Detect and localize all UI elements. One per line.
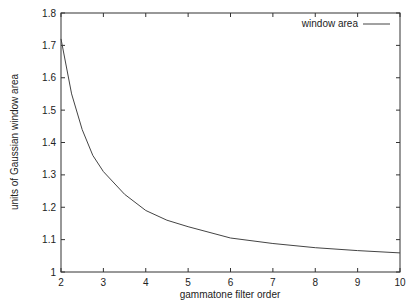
y-axis-ticks: 11.11.21.31.41.51.61.71.8: [42, 8, 400, 278]
legend-label: window area: [301, 18, 359, 29]
y-tick-label: 1.6: [42, 72, 56, 83]
y-tick-label: 1.4: [42, 137, 56, 148]
x-tick-label: 3: [101, 277, 107, 288]
line-chart: 11.11.21.31.41.51.61.71.8 2345678910 win…: [0, 0, 413, 304]
x-axis-title: gammatone filter order: [180, 289, 281, 300]
y-tick-label: 1.7: [42, 40, 56, 51]
y-tick-label: 1.8: [42, 8, 56, 19]
y-tick-label: 1.3: [42, 169, 56, 180]
y-tick-label: 1: [50, 267, 56, 278]
x-tick-label: 7: [270, 277, 276, 288]
y-tick-label: 1.2: [42, 202, 56, 213]
x-tick-label: 9: [355, 277, 361, 288]
x-tick-label: 6: [228, 277, 234, 288]
x-tick-label: 8: [312, 277, 318, 288]
x-tick-label: 2: [58, 277, 64, 288]
x-tick-label: 10: [394, 277, 406, 288]
x-tick-label: 4: [143, 277, 149, 288]
plot-frame: [61, 13, 400, 272]
y-tick-label: 1.1: [42, 234, 56, 245]
y-tick-label: 1.5: [42, 105, 56, 116]
x-axis-ticks: 2345678910: [58, 13, 406, 288]
x-tick-label: 5: [185, 277, 191, 288]
series-line-window-area: [61, 39, 400, 253]
y-axis-title: units of Gaussian window area: [9, 73, 20, 210]
